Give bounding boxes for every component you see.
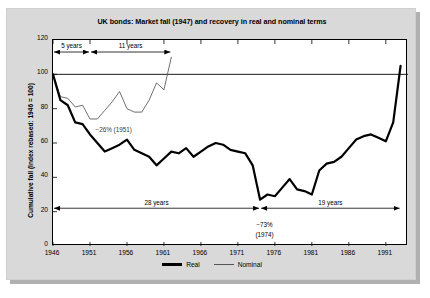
x-tick-label: 1976 bbox=[267, 249, 282, 256]
chart-title: UK bonds: Market fall (1947) and recover… bbox=[7, 17, 417, 26]
annotation-nominal-trough: −26% (1951) bbox=[96, 126, 132, 134]
y-tick-label: 40 bbox=[26, 172, 48, 179]
annotation-span-28-years: 28 years bbox=[144, 199, 168, 207]
figure-card: UK bonds: Market fall (1947) and recover… bbox=[6, 8, 416, 280]
legend-label-nominal: Nominal bbox=[238, 261, 262, 268]
y-tick-label: 60 bbox=[26, 138, 48, 145]
plot-inner: −26% (1951) −73% (1974) 5 years 11 years… bbox=[53, 40, 406, 244]
x-tick-label: 1961 bbox=[156, 249, 171, 256]
x-tick-label: 1956 bbox=[119, 249, 134, 256]
x-tick-label: 1981 bbox=[304, 249, 319, 256]
y-tick-label: 20 bbox=[26, 207, 48, 214]
x-tick-label: 1946 bbox=[45, 249, 60, 256]
legend-swatch-real-icon bbox=[162, 263, 182, 265]
annotation-span-11-years: 11 years bbox=[119, 42, 143, 50]
legend-item-real: Real bbox=[162, 261, 200, 268]
y-tick-label: 0 bbox=[26, 241, 48, 248]
annotation-span-19-years: 19 years bbox=[318, 199, 342, 207]
x-tick-label: 1966 bbox=[193, 249, 208, 256]
y-tick-label: 80 bbox=[26, 104, 48, 111]
x-tick-label: 1951 bbox=[82, 249, 97, 256]
y-tick-label: 120 bbox=[26, 35, 48, 42]
x-tick-label: 1986 bbox=[340, 249, 355, 256]
legend-label-real: Real bbox=[186, 261, 200, 268]
legend-item-nominal: Nominal bbox=[214, 261, 262, 268]
legend-swatch-nominal-icon bbox=[214, 264, 234, 265]
annotation-span-5-years: 5 years bbox=[61, 42, 82, 50]
annotation-real-trough-year: (1974) bbox=[255, 231, 273, 239]
chart-canvas bbox=[53, 40, 408, 246]
x-axis-tick-labels: 1946195119561961196619711976198119861991 bbox=[52, 249, 407, 261]
y-axis-tick-labels: 020406080100120 bbox=[24, 39, 48, 245]
chart-legend: Real Nominal bbox=[7, 261, 417, 268]
x-tick-label: 1971 bbox=[230, 249, 245, 256]
y-tick-label: 100 bbox=[26, 69, 48, 76]
x-tick-label: 1991 bbox=[377, 249, 392, 256]
annotation-real-trough-pct: −73% bbox=[256, 221, 272, 229]
plot-area: −26% (1951) −73% (1974) 5 years 11 years… bbox=[52, 39, 407, 245]
